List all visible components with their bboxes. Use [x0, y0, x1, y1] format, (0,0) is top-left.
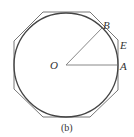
diagram-canvas: O A B E (b)	[0, 0, 134, 137]
label-e: E	[119, 39, 127, 51]
label-b: B	[103, 19, 110, 31]
radius-ob	[66, 28, 102, 65]
label-a: A	[119, 60, 127, 72]
label-o: O	[50, 59, 58, 71]
caption: (b)	[61, 122, 73, 134]
